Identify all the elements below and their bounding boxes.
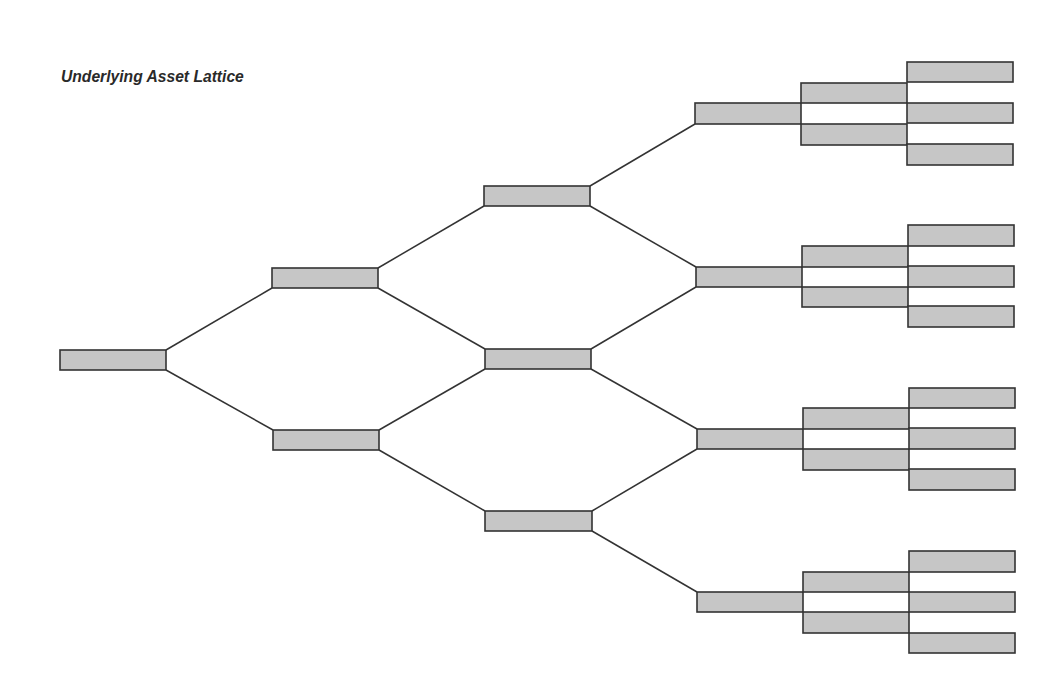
lattice-node-l2-down xyxy=(485,511,592,531)
lattice-node-l4-1a xyxy=(801,83,907,103)
lattice-node-l5-3c xyxy=(909,469,1015,490)
lattice-node-l5-3b xyxy=(909,428,1015,449)
lattice-node-l5-2b xyxy=(908,266,1014,287)
lattice-edge xyxy=(590,124,695,186)
lattice-edge xyxy=(166,370,273,430)
lattice-node-l4-1b xyxy=(801,124,907,145)
lattice-edges xyxy=(166,124,697,592)
lattice-edge xyxy=(591,287,696,349)
lattice-edge xyxy=(379,450,485,511)
lattice-node-l3-2 xyxy=(696,267,802,287)
lattice-node-l5-3a xyxy=(909,388,1015,408)
lattice-node-l5-1c xyxy=(907,144,1013,165)
lattice-node-l2-up xyxy=(484,186,590,206)
lattice-node-l5-4b xyxy=(909,592,1015,612)
lattice-node-l5-2c xyxy=(908,306,1014,327)
lattice-node-l4-2a xyxy=(802,246,908,267)
lattice-diagram xyxy=(0,0,1055,692)
lattice-edge xyxy=(592,449,697,511)
lattice-node-l3-4 xyxy=(697,592,803,612)
lattice-node-l4-4a xyxy=(803,572,909,592)
lattice-node-l5-4a xyxy=(909,551,1015,572)
lattice-node-l1-up xyxy=(272,268,378,288)
lattice-node-l2-mid xyxy=(485,349,591,369)
lattice-edge xyxy=(591,369,697,429)
lattice-edge xyxy=(378,288,485,349)
lattice-node-l5-1b xyxy=(907,103,1013,123)
lattice-node-l4-3a xyxy=(803,408,909,429)
lattice-edge xyxy=(378,206,484,268)
lattice-node-l5-4c xyxy=(909,633,1015,653)
lattice-node-l0 xyxy=(60,350,166,370)
lattice-node-l4-4b xyxy=(803,612,909,633)
lattice-node-l4-3b xyxy=(803,449,909,470)
lattice-node-l4-2b xyxy=(802,287,908,307)
lattice-edge xyxy=(592,531,697,592)
lattice-edge xyxy=(379,369,485,430)
lattice-nodes xyxy=(60,62,1015,653)
lattice-node-l5-1a xyxy=(907,62,1013,82)
lattice-node-l3-3 xyxy=(697,429,803,449)
lattice-node-l5-2a xyxy=(908,225,1014,246)
lattice-node-l1-down xyxy=(273,430,379,450)
lattice-edge xyxy=(590,206,696,267)
lattice-edge xyxy=(166,288,272,350)
lattice-node-l3-1 xyxy=(695,103,801,124)
